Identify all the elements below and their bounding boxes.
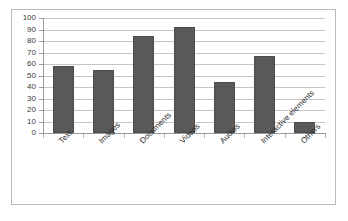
bar[interactable] — [174, 27, 195, 133]
y-axis-tick-label: 60 — [10, 60, 36, 68]
x-axis-tick-mark — [124, 134, 125, 138]
y-axis-tick-label: 90 — [10, 26, 36, 34]
y-axis-tick-label: 30 — [10, 95, 36, 103]
bar[interactable] — [53, 66, 74, 133]
y-axis-tick-label: 10 — [10, 118, 36, 126]
y-axis-tick-label: 40 — [10, 83, 36, 91]
x-axis-tick-mark — [43, 134, 44, 138]
x-axis-tick-mark — [204, 134, 205, 138]
x-axis-tick-mark — [244, 134, 245, 138]
y-axis-tick-label: 70 — [10, 49, 36, 57]
bar[interactable] — [133, 36, 154, 133]
y-axis-tick-label: 80 — [10, 37, 36, 45]
x-axis-tick-mark — [83, 134, 84, 138]
bar-chart-figure: 1009080706050403020100 TextImagesDocumen… — [0, 0, 348, 221]
y-axis-tick-label: 0 — [10, 129, 36, 137]
x-axis-tick-mark — [164, 134, 165, 138]
bar[interactable] — [254, 56, 275, 133]
x-axis-tick-mark — [285, 134, 286, 138]
y-axis-tick-label: 100 — [10, 14, 36, 22]
x-axis-tick-mark — [325, 134, 326, 138]
y-axis-tick-label: 20 — [10, 106, 36, 114]
y-axis-tick-label: 50 — [10, 72, 36, 80]
